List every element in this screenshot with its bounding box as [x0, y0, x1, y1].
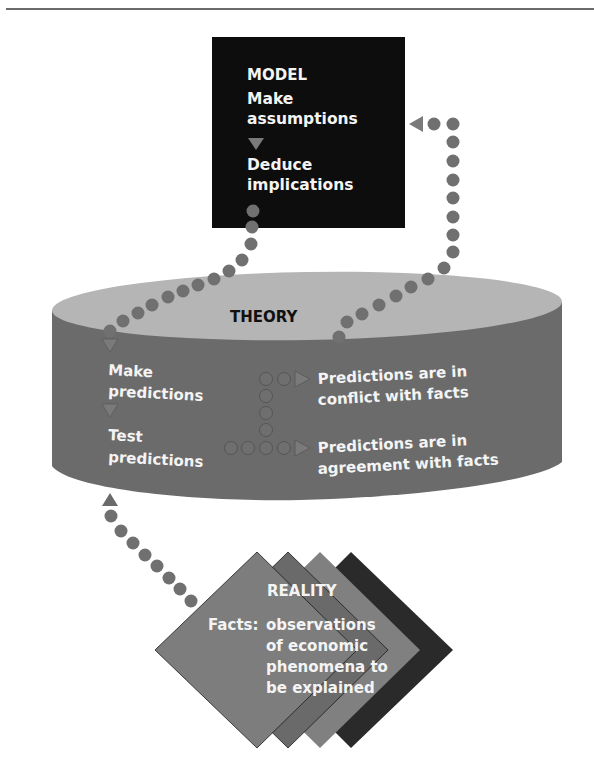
reality-line4: be explained	[266, 679, 375, 697]
model-box: MODEL Make assumptions Deduce implicatio…	[212, 37, 405, 228]
theory-step-make: Make	[108, 361, 154, 381]
reality-title: REALITY	[267, 582, 338, 600]
model-step-implications: implications	[247, 176, 353, 194]
theory-step-test: Test	[108, 426, 143, 446]
theory-up-arrow-icon	[102, 493, 118, 506]
reality-facts-label: Facts:	[208, 616, 258, 634]
reality-line3: phenomena to	[266, 658, 388, 676]
model-step-assumptions: assumptions	[247, 110, 358, 128]
reality-diamonds: REALITY Facts: observations of economic …	[155, 552, 453, 748]
model-title: MODEL	[247, 66, 307, 84]
economic-model-diagram: MODEL Make assumptions Deduce implicatio…	[0, 0, 594, 775]
model-step-deduce: Deduce	[247, 156, 312, 174]
model-left-arrow-icon	[409, 116, 423, 132]
reality-line2: of economic	[266, 637, 368, 655]
path-reality-to-theory	[105, 510, 198, 608]
theory-title: THEORY	[230, 308, 299, 326]
model-step-make: Make	[247, 90, 293, 108]
reality-line1: observations	[266, 616, 376, 634]
